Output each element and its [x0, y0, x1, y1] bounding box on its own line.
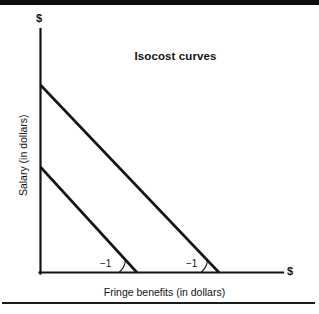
slope-annotation-lower: −1 [100, 259, 111, 269]
y-axis-title: Salary (in dollars) [18, 80, 29, 230]
isocost-curve-lower [41, 167, 138, 273]
angle-arc-lower [119, 259, 126, 273]
x-axis-unit-label: $ [287, 266, 293, 277]
chart-title: Isocost curves [0, 51, 319, 63]
isocost-chart-graphic [0, 0, 319, 314]
y-axis-unit-label: $ [36, 13, 42, 24]
slope-annotation-upper: −1 [186, 259, 197, 269]
x-axis-title: Fringe benefits (in dollars) [40, 287, 289, 298]
figure-panel: Isocost curves $ $ Salary (in dollars) F… [0, 0, 319, 314]
bottom-rule-divider [2, 302, 315, 304]
isocost-curve-upper [41, 85, 220, 273]
